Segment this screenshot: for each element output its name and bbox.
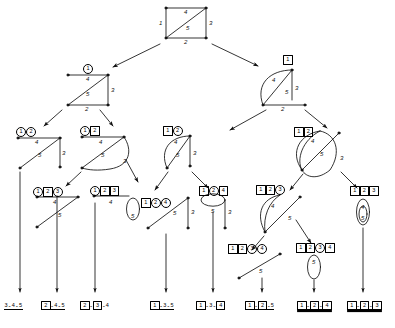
leaf-underline: 1-2-4: [297, 301, 332, 310]
leaf-token-boxed-2: 2: [310, 301, 320, 311]
n2-edge-label-2: 2: [281, 106, 284, 112]
root-edge-label-3: 3: [209, 20, 212, 26]
leaf-token-boxed-2: 2: [41, 301, 51, 311]
tag-token-boxed-2: 2: [238, 244, 248, 254]
tree-edge-n1-to-n3: [44, 110, 62, 126]
tag-token-circled-2: 2: [26, 127, 36, 137]
tree-edge-n1-to-n4: [100, 110, 113, 126]
leaf-3-4-5: 3-4-5: [4, 300, 23, 310]
tag-token-circled-3: 3: [53, 187, 63, 197]
tag-token-circled-3: 3: [315, 243, 325, 253]
leaf-token-boxed-3: 3: [372, 301, 382, 311]
tree-edge-n4-to-n8: [126, 160, 138, 182]
tree-edge-n5-to-n9: [155, 172, 168, 190]
tag-token-boxed-2: 2: [90, 126, 100, 136]
n2-edge-label-4: 4: [272, 77, 275, 83]
leaf-underline: 1-3-4: [196, 301, 225, 308]
leaf-token-plain-5: 5: [18, 302, 22, 309]
tag-token-circled-4: 4: [257, 244, 267, 254]
leaf-token-boxed-1: 1: [347, 301, 357, 311]
n12-edge-label-4: 4: [361, 204, 364, 210]
n3-edge-label-5: 5: [38, 152, 41, 158]
n11-tag: 123: [256, 185, 285, 195]
n11-edge-label-4: 4: [271, 203, 274, 209]
tag-token-boxed-4: 4: [219, 186, 229, 196]
leaf-token-boxed-2: 2: [80, 301, 90, 311]
leaf-token-boxed-4: 4: [216, 301, 226, 311]
n5-edge-label-4: 4: [174, 139, 177, 145]
n11-edge-label-5: 5: [288, 215, 291, 221]
leaf-token-plain-5: 5: [170, 302, 174, 309]
tree-edge-n4-to-n7: [66, 172, 81, 186]
tag-token-boxed-2: 2: [266, 185, 276, 195]
tag-token-boxed-3: 3: [369, 186, 379, 196]
n9-tag: 124: [141, 198, 171, 208]
tag-token-circled-2: 2: [151, 198, 161, 208]
tag-token-boxed-4: 4: [325, 243, 335, 253]
leaf-2-3-4: 2-3-4: [80, 300, 109, 310]
tag-token-circled-1: 1: [90, 186, 100, 196]
n13-edge-label-5: 5: [259, 268, 262, 274]
n4-edge-label-5: 5: [101, 152, 104, 158]
tag-token-boxed-1: 1: [350, 186, 360, 196]
n9-edge-label-5: 5: [173, 210, 176, 216]
leaf-token-boxed-1: 1: [245, 301, 255, 311]
tag-token-circled-1: 1: [16, 127, 26, 137]
leaf-token-boxed-1: 1: [150, 301, 160, 311]
n14-edge-label-5: 5: [312, 259, 315, 265]
n6-edge-label-5: 5: [320, 151, 323, 157]
tag-token-boxed-1: 1: [199, 186, 209, 196]
n7-edge-label-5: 5: [58, 212, 61, 218]
leaf-underline: 1-2-3: [347, 301, 382, 310]
tag-token-circled-3: 3: [247, 244, 257, 254]
tag-token-circled-2: 2: [173, 126, 183, 136]
n1-edge-label-4: 4: [86, 76, 89, 82]
n11-graph-shape: [260, 195, 301, 233]
n10-edge-label-5: 5: [211, 208, 214, 214]
n10-tag: 124: [199, 186, 228, 196]
tree-edge-n6-to-n11: [290, 174, 303, 190]
tag-token-circled-3: 3: [275, 185, 285, 195]
leaf-token-plain-5: 5: [270, 302, 274, 309]
tag-token-boxed-2: 2: [43, 187, 53, 197]
n6-tag: 12: [294, 127, 313, 137]
leaf-1-2-4: 1-2-4: [297, 300, 332, 310]
n12-tag: 123: [350, 186, 379, 196]
leaf-token-boxed-2: 2: [360, 301, 370, 311]
n4-edge-label-3: 3: [123, 158, 126, 164]
diagram-canvas: [0, 0, 395, 328]
n12-graph-shape: [357, 199, 370, 225]
tree-edge-n2-to-n6: [305, 110, 327, 128]
root-edge-label-2: 2: [184, 39, 187, 45]
n3-tag: 12: [16, 127, 36, 137]
n8-edge-label-4: 4: [109, 199, 112, 205]
tag-token-boxed-1: 1: [296, 243, 306, 253]
tree-edge-root-to-n2: [212, 44, 258, 66]
leaf-token-plain-5: 5: [61, 302, 65, 309]
leaf-token-boxed-2: 2: [258, 301, 268, 311]
n4-edge-label-4: 4: [99, 139, 102, 145]
n14-tag: 1234: [296, 243, 335, 253]
n8-edge-label-5: 5: [131, 213, 134, 219]
tag-token-circled-1: 1: [80, 126, 90, 136]
leaf-underline: 2-4-5: [41, 301, 65, 310]
root-edge-label-4: 4: [184, 9, 187, 15]
n1-edge-label-3: 3: [111, 87, 114, 93]
leaf-underline: 3-4-5: [4, 301, 23, 310]
n4-tag: 12: [80, 126, 100, 136]
n9-edge-label-3: 3: [191, 209, 194, 215]
n1-edge-label-2: 2: [85, 106, 88, 112]
leaf-token-boxed-1: 1: [297, 301, 307, 311]
n1-tag: 1: [83, 64, 93, 74]
tag-token-circled-2: 2: [209, 186, 219, 196]
tag-token-boxed-1: 1: [141, 198, 151, 208]
leaf-underline: 2-3-4: [80, 301, 109, 308]
n3-edge-label-4: 4: [35, 139, 38, 145]
n2-graph-shape: [261, 69, 306, 106]
n1-edge-label-5: 5: [86, 91, 89, 97]
n5-tag: 12: [163, 126, 183, 136]
tag-token-boxed-2: 2: [100, 186, 110, 196]
n2-tag: 1: [283, 55, 293, 65]
leaf-1-3-4: 1-3-4: [196, 300, 225, 310]
n6-edge-label-3: 3: [340, 155, 343, 161]
